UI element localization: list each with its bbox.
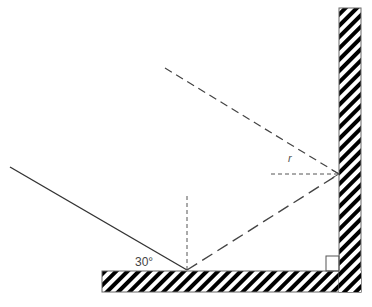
incident-ray bbox=[10, 167, 187, 270]
reflection-diagram: 30° r bbox=[0, 0, 372, 307]
mirror-corner-fill bbox=[339, 271, 361, 292]
reflected-ray-2 bbox=[165, 68, 339, 174]
incident-angle-label: 30° bbox=[135, 255, 153, 269]
reflected-ray-1 bbox=[187, 174, 339, 270]
reflection-angle-label: r bbox=[288, 152, 293, 164]
right-angle-marker bbox=[326, 256, 339, 271]
vertical-mirror bbox=[339, 8, 361, 292]
horizontal-mirror bbox=[102, 271, 361, 292]
